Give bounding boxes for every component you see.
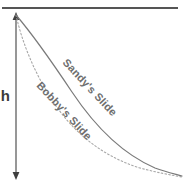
- height-label: h: [1, 87, 10, 104]
- height-arrow-head-bottom: [13, 172, 20, 180]
- slide-diagram: h Sandy's Slide Bobby's Slide: [0, 0, 183, 186]
- diagram-canvas: h Sandy's Slide Bobby's Slide: [0, 0, 183, 186]
- height-arrow: [13, 12, 20, 180]
